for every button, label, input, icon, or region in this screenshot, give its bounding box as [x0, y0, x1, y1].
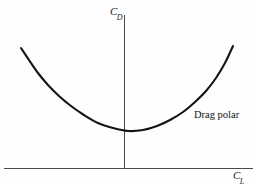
- y-axis-label: CD: [110, 6, 123, 20]
- drag-polar-annotation-label: Drag polar: [194, 110, 239, 121]
- y-axis-label-subscript: D: [117, 13, 123, 22]
- x-axis-label-subscript: L: [240, 177, 244, 184]
- drag-polar-figure: CD CL Drag polar: [0, 0, 253, 184]
- plot-canvas: [0, 0, 253, 184]
- x-axis-label: CL: [233, 170, 245, 184]
